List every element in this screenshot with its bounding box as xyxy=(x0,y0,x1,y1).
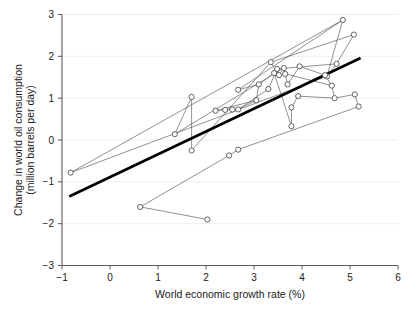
data-point-5 xyxy=(172,132,177,137)
data-point-32 xyxy=(351,32,356,37)
data-point-17 xyxy=(266,86,271,91)
data-point-20 xyxy=(281,65,286,70)
data-point-7 xyxy=(189,148,194,153)
xtick-label-0: 0 xyxy=(107,272,113,283)
data-point-24 xyxy=(289,124,294,129)
oil-consumption-scatter-chart: −10123456 −3−2−10123 World economic grow… xyxy=(0,0,417,319)
ytick-label-1: 1 xyxy=(48,93,54,104)
xtick-label-3: 3 xyxy=(251,272,257,283)
ytick-label-0: 0 xyxy=(48,135,54,146)
data-point-0 xyxy=(68,170,73,175)
data-point-23 xyxy=(289,105,294,110)
data-point-21 xyxy=(283,71,288,76)
data-point-9 xyxy=(236,107,241,112)
data-point-28 xyxy=(329,83,334,88)
data-point-35 xyxy=(236,147,241,152)
ytick-label-2: 2 xyxy=(48,51,54,62)
data-point-3 xyxy=(205,217,210,222)
data-point-6 xyxy=(189,94,194,99)
data-point-29 xyxy=(332,96,337,101)
y-axis-title-line-2: (million barrels per day) xyxy=(24,85,36,195)
ytick-label--2: −2 xyxy=(43,218,55,229)
xtick-label-5: 5 xyxy=(347,272,353,283)
data-point-11 xyxy=(223,107,228,112)
data-point-25 xyxy=(297,64,302,69)
xtick-label-6: 6 xyxy=(395,272,401,283)
y-axis-title-line-1: Change in world oil consumption xyxy=(12,64,24,216)
ytick-label-3: 3 xyxy=(48,9,54,20)
data-point-27 xyxy=(322,73,327,78)
data-point-22 xyxy=(285,82,290,87)
data-point-30 xyxy=(334,61,339,66)
data-point-1 xyxy=(226,153,231,158)
xtick-label-2: 2 xyxy=(203,272,209,283)
xtick-label--1: −1 xyxy=(56,272,68,283)
data-point-10 xyxy=(213,108,218,113)
x-axis-title: World economic growth rate (%) xyxy=(155,288,305,300)
xtick-label-1: 1 xyxy=(155,272,161,283)
data-point-13 xyxy=(256,82,261,87)
data-point-12 xyxy=(230,107,235,112)
data-point-34 xyxy=(356,104,361,109)
data-point-2 xyxy=(138,204,143,209)
data-point-8 xyxy=(236,87,241,92)
ytick-label--1: −1 xyxy=(43,176,55,187)
data-point-33 xyxy=(352,92,357,97)
data-point-15 xyxy=(268,60,273,65)
data-point-26 xyxy=(296,93,301,98)
data-point-14 xyxy=(254,98,259,103)
xtick-label-4: 4 xyxy=(299,272,305,283)
data-point-19 xyxy=(276,73,281,78)
data-point-18 xyxy=(274,66,279,71)
ytick-label--3: −3 xyxy=(43,260,55,271)
data-point-31 xyxy=(340,17,345,22)
